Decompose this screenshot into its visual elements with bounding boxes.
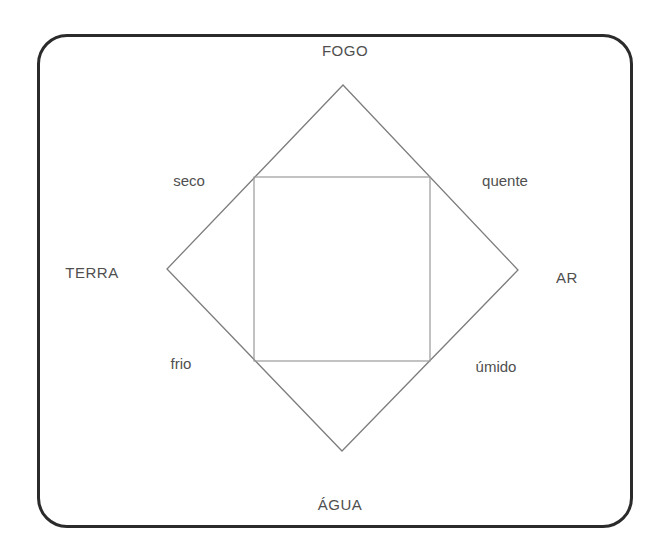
element-label-air: AR xyxy=(556,269,578,286)
element-label-fire: FOGO xyxy=(322,42,368,59)
rounded-frame xyxy=(37,34,633,528)
elements-diagram: FOGO TERRA AR ÁGUA seco quente frio úmid… xyxy=(0,0,667,553)
quality-label-hot: quente xyxy=(482,172,528,189)
element-label-earth: TERRA xyxy=(65,264,118,281)
quality-label-cold: frio xyxy=(171,355,192,372)
quality-label-dry: seco xyxy=(173,172,205,189)
quality-label-humid: úmido xyxy=(476,358,517,375)
element-label-water: ÁGUA xyxy=(318,496,363,513)
